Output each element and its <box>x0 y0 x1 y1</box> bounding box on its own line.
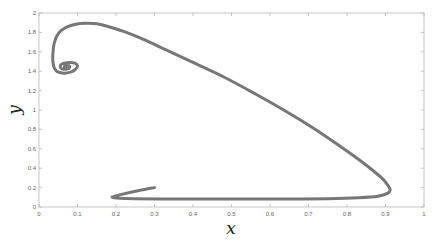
x-tick-label: 0.3 <box>150 211 159 217</box>
x-tick-label: 0.6 <box>266 211 275 217</box>
x-tick-label: 0.2 <box>112 211 121 217</box>
y-tick-label: 0 <box>33 204 37 210</box>
x-tick-label: 0.1 <box>73 211 82 217</box>
y-tick-label: 1.4 <box>28 68 37 74</box>
x-tick-label: 0 <box>37 211 41 217</box>
y-tick-label: 0.2 <box>28 185 37 191</box>
x-tick-label: 0.7 <box>304 211 313 217</box>
trajectory-chart: 00.10.20.30.40.50.60.70.80.91 00.20.40.6… <box>0 0 440 243</box>
y-tick-label: 2 <box>33 10 37 16</box>
y-tick-label: 0.6 <box>28 146 37 152</box>
y-tick-label: 0.4 <box>28 165 37 171</box>
x-tick-label: 1 <box>422 211 426 217</box>
x-tick-label: 0.5 <box>227 211 236 217</box>
x-tick-label: 0.8 <box>343 211 352 217</box>
x-axis-label: x <box>226 218 236 238</box>
y-tick-label: 1.8 <box>28 29 37 35</box>
y-tick-label: 0.8 <box>28 126 37 132</box>
plot-background <box>39 13 424 207</box>
y-axis-label: y <box>4 105 24 116</box>
x-tick-label: 0.9 <box>381 211 390 217</box>
y-tick-label: 1.6 <box>28 49 37 55</box>
y-tick-label: 1 <box>33 107 37 113</box>
x-tick-label: 0.4 <box>189 211 198 217</box>
y-tick-label: 1.2 <box>28 88 37 94</box>
